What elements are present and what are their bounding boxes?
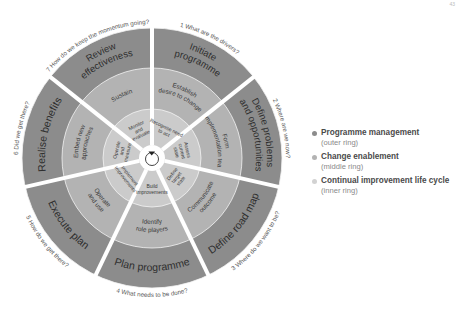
legend-title: Change enablement [321, 151, 463, 162]
legend-item-continual-improvement: Continual improvement life cycle (inner … [311, 175, 463, 196]
legend-subtitle: (inner ring) [321, 186, 463, 196]
page-number: 43 [449, 1, 455, 7]
center-hub [139, 145, 165, 171]
legend-dot-outer [312, 131, 317, 136]
legend-dot-middle [312, 155, 317, 160]
legend-subtitle: (middle ring) [321, 162, 463, 172]
legend-item-programme-management: Programme management (outer ring) [311, 127, 463, 148]
legend-item-change-enablement: Change enablement (middle ring) [311, 151, 463, 172]
legend: Programme management (outer ring) Change… [311, 127, 463, 199]
legend-title: Programme management [321, 127, 463, 138]
improvement-wheel: 1 What are the drivers?Initiateprogramme… [0, 0, 300, 319]
legend-dot-inner [312, 179, 317, 184]
middle-label-4: Identify [142, 217, 164, 225]
svg-text:improvements: improvements [136, 189, 168, 195]
legend-title: Continual improvement life cycle [321, 175, 463, 186]
legend-subtitle: (outer ring) [321, 138, 463, 148]
